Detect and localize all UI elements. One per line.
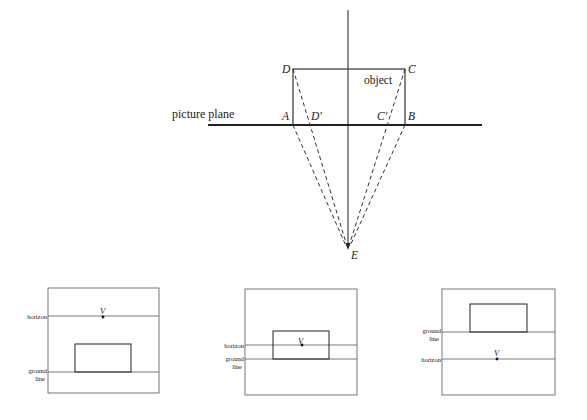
label-D: D [281,63,291,75]
object-rectangle [75,344,131,372]
vanishing-point-label: V [100,306,107,316]
label-C: C [408,63,416,75]
object-rectangle [470,304,527,332]
label-A: A [281,110,290,122]
sight-line-B [350,125,405,246]
ground-label: ground [226,355,245,362]
horizon-label: horizon [421,356,442,363]
top-view-diagram: picture plane object D C A B D′ C′ E [172,10,482,261]
ground-label: ground [29,367,48,374]
label-C-prime: C′ [377,110,388,122]
picture-plane-label: picture plane [172,107,234,121]
perspective-diagram: picture plane object D C A B D′ C′ E V h… [0,0,587,420]
horizon-label: horizon [224,342,245,349]
label-D-prime: D′ [310,110,322,122]
vanishing-point [102,316,105,319]
line-label: line [35,375,45,382]
ground-label: ground [423,327,442,334]
label-B: B [408,110,415,122]
line-label: line [429,335,439,342]
panel-2: V horizon ground line [224,289,357,395]
sight-line-A [293,125,346,246]
line-label: line [232,363,242,370]
sight-line-C [349,69,405,246]
object-label: object [364,74,393,87]
panel-3: V ground line horizon [421,289,555,395]
panel-frame [442,289,555,395]
panel-frame [48,288,159,393]
vanishing-point-label: V [298,336,305,346]
sight-line-D [293,69,347,246]
vanishing-point [496,358,499,361]
vanishing-point-label: V [494,348,501,358]
panel-1: V horizon ground line [27,288,159,393]
horizon-label: horizon [27,313,48,320]
label-E: E [350,249,358,261]
